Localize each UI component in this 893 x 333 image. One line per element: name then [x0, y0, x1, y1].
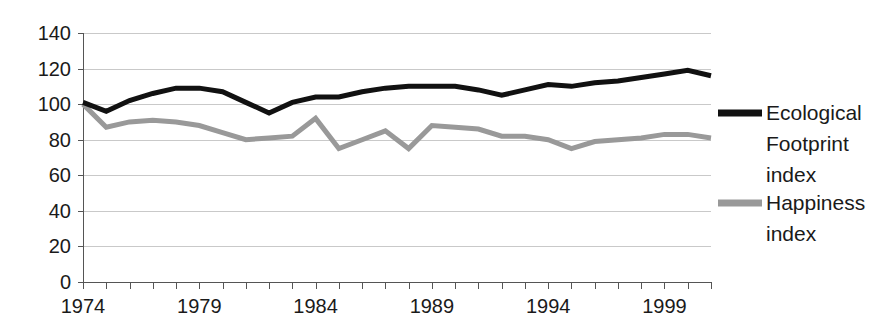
legend-label: Happiness [766, 191, 865, 214]
chart-legend: EcologicalFootprintindexHappinessindex [718, 101, 865, 245]
y-axis-tick-label: 60 [49, 164, 71, 186]
y-axis-tick-label: 120 [38, 58, 71, 80]
x-axis-tick-label: 1974 [61, 295, 106, 317]
y-axis-tick-label: 0 [60, 271, 71, 293]
legend-label: Ecological [766, 101, 862, 124]
legend-label: index [766, 163, 817, 186]
tick-marks [78, 34, 712, 290]
x-axis-tick-label: 1984 [293, 295, 338, 317]
data-series [83, 70, 711, 148]
x-axis-tick-label: 1979 [177, 295, 222, 317]
axes [83, 33, 711, 283]
series-line [83, 70, 711, 113]
series-line [83, 104, 711, 148]
x-axis-tick-labels: 197419791984198919941999 [61, 295, 687, 317]
y-axis-tick-label: 100 [38, 93, 71, 115]
x-axis-tick-label: 1989 [410, 295, 455, 317]
y-axis-tick-label: 140 [38, 22, 71, 44]
line-chart: 020406080100120140 197419791984198919941… [0, 0, 893, 333]
y-axis-tick-label: 80 [49, 129, 71, 151]
x-axis-tick-label: 1999 [642, 295, 687, 317]
legend-label: index [766, 222, 817, 245]
chart-container: 020406080100120140 197419791984198919941… [0, 0, 893, 333]
y-axis-tick-label: 40 [49, 200, 71, 222]
y-axis-tick-label: 20 [49, 235, 71, 257]
gridlines [83, 34, 711, 283]
y-axis-tick-labels: 020406080100120140 [38, 22, 71, 293]
x-axis-tick-label: 1994 [526, 295, 571, 317]
legend-label: Footprint [766, 132, 849, 155]
